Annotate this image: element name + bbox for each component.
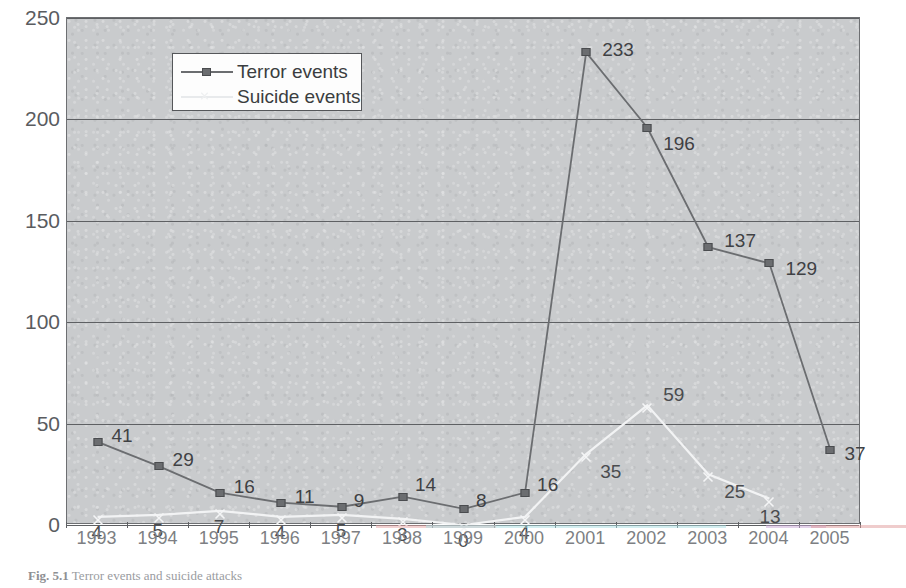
data-point-label: 25 bbox=[724, 482, 745, 501]
x-axis-tick bbox=[310, 522, 311, 528]
y-axis-tick-label: 50 bbox=[4, 413, 60, 434]
legend-marker-square-icon bbox=[181, 66, 233, 78]
x-axis-tick-label: 2001 bbox=[565, 528, 605, 549]
x-axis-tick-label: 1996 bbox=[260, 528, 300, 549]
x-axis-tick-label: 1995 bbox=[199, 528, 239, 549]
data-point-marker bbox=[336, 509, 347, 520]
data-point-marker bbox=[582, 48, 591, 56]
chart-legend: Terror events Suicide events bbox=[172, 53, 362, 111]
x-axis-tick-label: 2004 bbox=[748, 528, 788, 549]
y-axis-tick-label: 250 bbox=[4, 7, 60, 28]
data-point-label: 8 bbox=[476, 491, 487, 510]
caption-text: Terror events and suicide attacks bbox=[72, 570, 242, 583]
x-axis-tick bbox=[371, 522, 372, 528]
y-axis: 050100150200250 bbox=[0, 0, 60, 588]
data-point-marker bbox=[765, 259, 774, 267]
data-point-marker bbox=[704, 243, 713, 251]
data-point-label: 16 bbox=[537, 475, 558, 494]
data-point-marker bbox=[275, 511, 286, 522]
data-point-marker bbox=[520, 511, 531, 522]
x-axis-tick bbox=[494, 522, 495, 528]
x-axis-tick-label: 1999 bbox=[443, 528, 483, 549]
legend-item-terror-events: Terror events bbox=[173, 59, 361, 84]
x-axis-tick bbox=[799, 522, 800, 528]
legend-label: Suicide events bbox=[237, 86, 361, 108]
x-axis-tick bbox=[66, 522, 67, 528]
data-point-marker bbox=[93, 438, 102, 446]
data-point-marker bbox=[460, 505, 469, 513]
data-point-label: 196 bbox=[663, 134, 695, 153]
x-axis-tick bbox=[188, 522, 189, 528]
x-axis-tick-label: 2000 bbox=[504, 528, 544, 549]
data-point-label: 137 bbox=[724, 231, 756, 250]
data-point-marker bbox=[276, 499, 285, 507]
data-point-label: 13 bbox=[759, 507, 780, 526]
x-axis-tick bbox=[127, 522, 128, 528]
x-axis-tick-label: 2003 bbox=[687, 528, 727, 549]
data-point-label: 129 bbox=[785, 259, 817, 278]
x-axis-tick bbox=[616, 522, 617, 528]
x-axis-tick-label: 2002 bbox=[626, 528, 666, 549]
y-axis-tick-label: 100 bbox=[4, 311, 60, 332]
data-point-label: 59 bbox=[663, 385, 684, 404]
data-point-marker bbox=[703, 469, 714, 480]
x-axis-tick-label: 1993 bbox=[77, 528, 117, 549]
data-point-marker bbox=[826, 446, 835, 454]
data-point-marker bbox=[154, 462, 163, 470]
figure-number: Fig. 5.1 bbox=[28, 570, 69, 583]
data-point-label: 41 bbox=[112, 426, 133, 445]
x-axis-tick bbox=[249, 522, 250, 528]
x-axis-tick bbox=[677, 522, 678, 528]
y-axis-tick-label: 150 bbox=[4, 210, 60, 231]
legend-label: Terror events bbox=[237, 61, 348, 83]
x-axis-tick bbox=[860, 522, 861, 528]
data-point-marker bbox=[214, 505, 225, 516]
y-axis-tick-label: 0 bbox=[4, 514, 60, 535]
y-axis-tick-label: 200 bbox=[4, 108, 60, 129]
data-point-label: 233 bbox=[602, 40, 634, 59]
series-line bbox=[98, 52, 831, 508]
series-line bbox=[98, 405, 770, 525]
data-point-label: 29 bbox=[173, 450, 194, 469]
x-axis-tick bbox=[738, 522, 739, 528]
data-point-label: 14 bbox=[415, 475, 436, 494]
data-point-marker bbox=[764, 493, 775, 504]
x-axis: 1993199419951996199719981999200020012002… bbox=[66, 528, 860, 554]
data-point-label: 9 bbox=[354, 491, 365, 510]
data-point-marker bbox=[643, 124, 652, 132]
figure-caption: Fig. 5.1 Terror events and suicide attac… bbox=[28, 570, 868, 588]
data-point-marker bbox=[92, 511, 103, 522]
data-point-marker bbox=[581, 449, 592, 460]
data-point-marker bbox=[642, 400, 653, 411]
data-point-marker bbox=[215, 489, 224, 497]
legend-marker-x-icon bbox=[181, 91, 233, 103]
data-point-marker bbox=[153, 509, 164, 520]
data-point-label: 16 bbox=[234, 477, 255, 496]
x-axis-tick bbox=[432, 522, 433, 528]
x-axis-tick-label: 2005 bbox=[809, 528, 849, 549]
data-point-label: 11 bbox=[295, 487, 315, 506]
data-point-marker bbox=[397, 513, 408, 524]
legend-item-suicide-events: Suicide events bbox=[173, 84, 361, 109]
x-axis-tick-label: 1997 bbox=[321, 528, 361, 549]
data-point-marker bbox=[521, 489, 530, 497]
data-point-label: 35 bbox=[600, 462, 621, 481]
data-point-label: 37 bbox=[844, 444, 865, 463]
x-axis-tick bbox=[555, 522, 556, 528]
data-point-marker bbox=[398, 493, 407, 501]
x-axis-tick-label: 1994 bbox=[138, 528, 178, 549]
x-axis-tick-label: 1998 bbox=[382, 528, 422, 549]
